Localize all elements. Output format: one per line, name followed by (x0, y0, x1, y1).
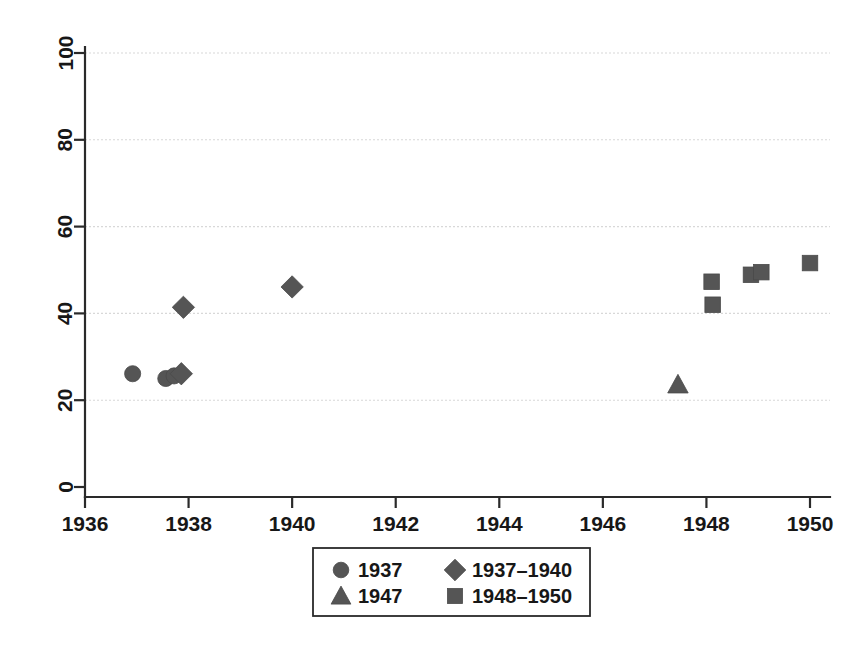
legend-marker-square-icon (448, 589, 463, 604)
axes (85, 47, 830, 497)
x-tick-label-1944: 1944 (476, 512, 523, 535)
data-point-3-3 (754, 264, 770, 280)
x-axis-tick-labels: 19361938194019421944194619481950 (62, 512, 834, 535)
x-tick-label-1946: 1946 (579, 512, 626, 535)
x-tick-label-1938: 1938 (165, 512, 212, 535)
gridlines (85, 53, 830, 400)
x-tick-label-1942: 1942 (372, 512, 419, 535)
y-axis-ticks (74, 53, 85, 487)
legend-marker-circle-icon (333, 562, 349, 578)
legend-item-1947[interactable]: 1947 (331, 585, 402, 607)
scatter-chart: 020406080100 193619381940194219441946194… (0, 0, 867, 651)
data-point-1-2 (281, 276, 303, 298)
legend-label-2: 1947 (358, 585, 403, 607)
y-axis-tick-labels: 020406080100 (54, 35, 77, 492)
y-tick-label-80: 80 (54, 128, 77, 151)
data-point-1-1 (172, 296, 194, 318)
data-points (125, 255, 818, 393)
x-tick-label-1948: 1948 (683, 512, 730, 535)
y-tick-label-60: 60 (54, 215, 77, 238)
x-tick-label-1950: 1950 (787, 512, 834, 535)
x-tick-label-1940: 1940 (269, 512, 316, 535)
data-point-3-1 (705, 297, 721, 313)
plot-area: 020406080100 193619381940194219441946194… (0, 0, 867, 651)
y-tick-label-0: 0 (54, 481, 77, 493)
y-tick-label-40: 40 (54, 302, 77, 325)
series-1947 (668, 374, 688, 393)
legend-label-3: 1948–1950 (472, 585, 572, 607)
series-1948-1950 (704, 255, 818, 312)
y-tick-label-100: 100 (54, 35, 77, 70)
legend-label-1: 1937–1940 (472, 559, 572, 581)
x-axis-ticks (85, 497, 810, 508)
y-tick-label-20: 20 (54, 389, 77, 412)
data-point-2-0 (668, 374, 688, 393)
legend-label-0: 1937 (358, 559, 403, 581)
chart-legend: 19371937–194019471948–1950 (313, 548, 590, 616)
series-1937-1940 (170, 276, 303, 385)
x-tick-label-1936: 1936 (62, 512, 109, 535)
legend-item-1937[interactable]: 1937 (333, 559, 402, 581)
data-point-0-0 (125, 366, 141, 382)
data-point-3-0 (704, 274, 720, 290)
data-point-3-4 (802, 255, 818, 271)
